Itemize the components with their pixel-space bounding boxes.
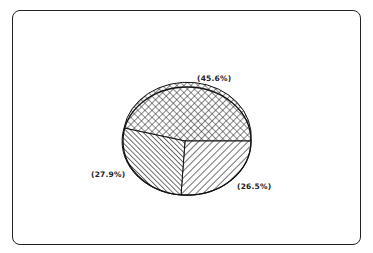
pie-chart xyxy=(0,0,373,253)
slice-label-1: (45.6%) xyxy=(197,74,231,83)
slice-label-3: (27.9%) xyxy=(91,170,125,179)
slice-label-2: (26.5%) xyxy=(237,182,271,191)
